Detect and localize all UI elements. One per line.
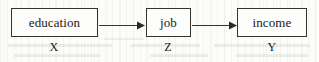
variable-label-x: X bbox=[24, 41, 84, 53]
arrowhead-icon bbox=[137, 22, 145, 30]
node-job-label: job bbox=[160, 16, 177, 29]
arrowhead-icon bbox=[229, 22, 237, 30]
variable-label-z: Z bbox=[138, 41, 198, 53]
scan-artifact bbox=[236, 54, 308, 57]
node-income-label: income bbox=[253, 16, 292, 29]
variable-label-y: Y bbox=[242, 41, 302, 53]
scan-artifact bbox=[104, 38, 144, 40]
causal-path-diagram: education job income X Z Y bbox=[0, 0, 319, 62]
node-education-label: education bbox=[29, 16, 80, 29]
node-income: income bbox=[237, 8, 307, 37]
node-job: job bbox=[146, 8, 191, 37]
scan-artifact bbox=[150, 54, 208, 57]
edge-job-to-income bbox=[192, 17, 237, 28]
node-education: education bbox=[11, 8, 98, 37]
edge-education-to-job bbox=[99, 17, 145, 28]
scan-artifact bbox=[14, 54, 100, 57]
